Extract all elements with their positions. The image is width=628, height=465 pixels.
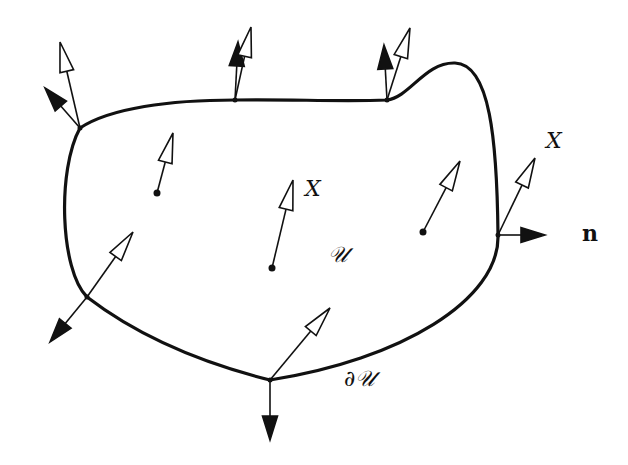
diagram-canvas (0, 0, 628, 465)
boundary-label: ∂𝒰 (344, 368, 375, 390)
interior-vector-1 (272, 180, 293, 268)
normal-vector-4 (50, 297, 87, 342)
normal-label: n (582, 222, 598, 244)
interior-vector-2 (423, 161, 460, 232)
interior-vectors (154, 133, 461, 272)
open-arrowhead-icon (279, 180, 293, 211)
filled-arrowhead-icon (50, 319, 71, 342)
field-label-boundary: X (546, 130, 562, 152)
field-label-interior: X (305, 178, 321, 200)
open-arrowhead-icon (159, 133, 173, 164)
boundary-point-dot (78, 126, 83, 131)
boundary-field-vector-4 (87, 232, 133, 297)
boundary-point-dot (268, 378, 273, 383)
filled-arrowhead-icon (521, 228, 545, 243)
boundary-field-vector-0 (60, 42, 80, 128)
normal-vector-2 (378, 45, 393, 100)
boundary-vectors (45, 27, 545, 440)
normal-vector-5 (263, 380, 278, 440)
open-arrowhead-icon (305, 308, 330, 336)
region-label: 𝒰 (328, 244, 348, 266)
open-arrowhead-icon (110, 232, 133, 261)
base-point-dot (154, 190, 161, 197)
open-arrowhead-icon (238, 27, 252, 58)
filled-arrowhead-icon (378, 45, 393, 69)
boundary-point-dot (496, 233, 501, 238)
open-arrowhead-icon (60, 42, 74, 73)
boundary-curve (65, 63, 498, 380)
open-arrowhead-icon (440, 161, 460, 191)
region-boundary (65, 63, 498, 380)
boundary-point-dot (385, 98, 390, 103)
boundary-point-dot (233, 98, 238, 103)
base-point-dot (420, 229, 427, 236)
filled-arrowhead-icon (45, 88, 66, 111)
open-arrowhead-icon (516, 158, 535, 188)
normal-vector-3 (498, 228, 545, 243)
base-point-dot (269, 265, 276, 272)
boundary-point-dot (85, 295, 90, 300)
open-arrowhead-icon (394, 28, 410, 59)
filled-arrowhead-icon (263, 416, 278, 440)
boundary-field-vector-3 (498, 158, 535, 235)
interior-vector-0 (157, 133, 173, 193)
